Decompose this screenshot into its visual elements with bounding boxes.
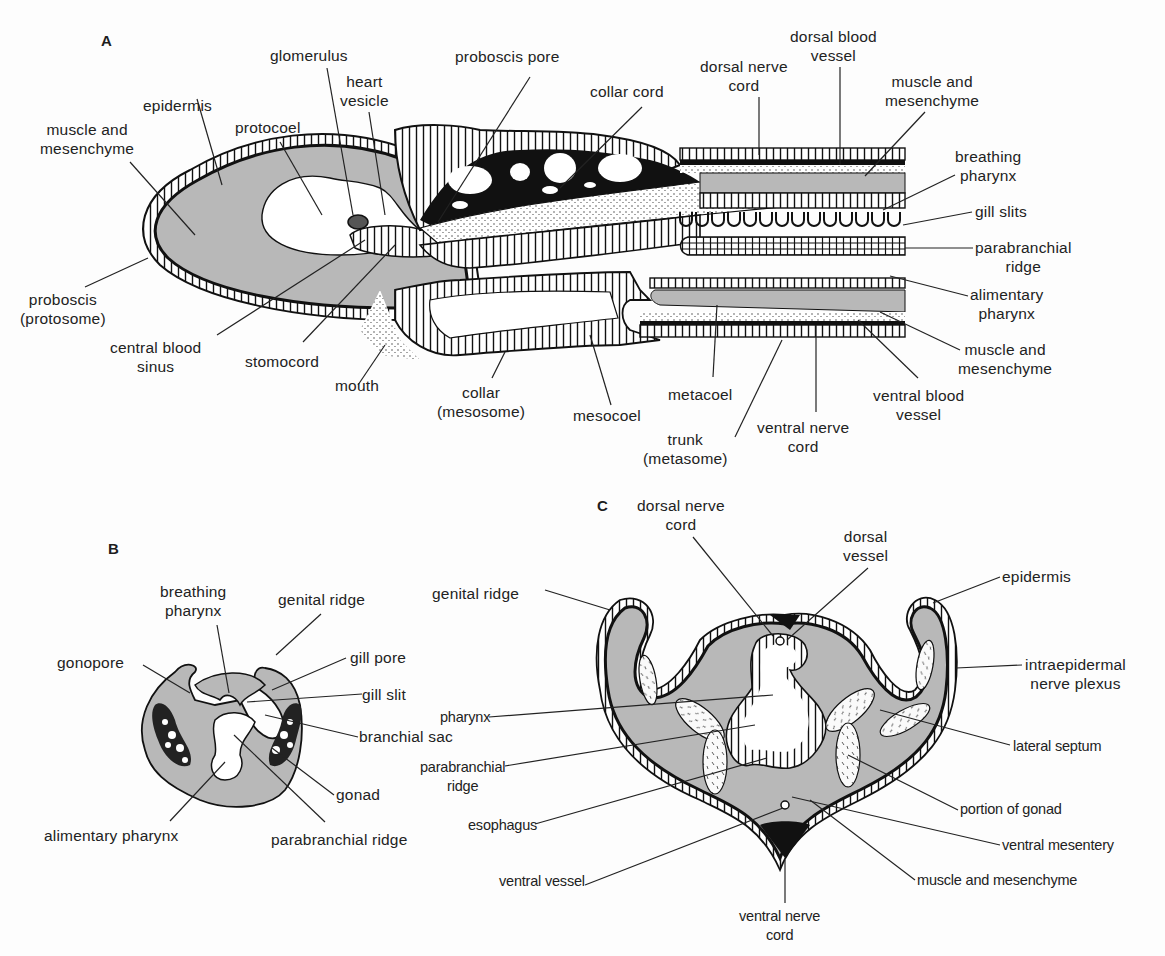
label-proboscis: proboscis (protosome): [20, 290, 106, 328]
label-genital-ridge-c: genital ridge: [432, 584, 519, 603]
label-ventral-nerve-cord-c: ventral nerve cord: [739, 907, 820, 945]
label-mesocoel: mesocoel: [573, 406, 641, 425]
gill-slits-row: [680, 212, 900, 226]
label-intraepidermal-nerve-plexus: intraepidermal nerve plexus: [1025, 655, 1126, 693]
label-gill-pore: gill pore: [350, 648, 406, 667]
label-collar: collar (mesosome): [437, 383, 525, 421]
label-gonad: gonad: [336, 785, 380, 804]
label-breathing-pharynx-b: breathing pharynx: [160, 582, 226, 620]
label-ventral-mesentery: ventral mesentery: [1002, 836, 1114, 855]
label-esophagus: esophagus: [468, 816, 537, 835]
label-muscle-mesenchyme-left: muscle and mesenchyme: [40, 120, 134, 158]
label-lateral-septum: lateral septum: [1013, 737, 1101, 756]
label-muscle-mesenchyme-c: muscle and mesenchyme: [917, 871, 1077, 890]
label-proboscis-pore: proboscis pore: [455, 47, 559, 66]
label-trunk: trunk (metasome): [643, 430, 728, 468]
label-dorsal-blood-vessel: dorsal blood vessel: [790, 27, 877, 65]
label-muscle-mesenchyme-upper: muscle and mesenchyme: [885, 72, 979, 110]
label-dorsal-vessel: dorsal vessel: [843, 527, 888, 565]
label-parabranchial-ridge-a: parabranchial ridge: [975, 238, 1072, 276]
panel-c-drawing: [489, 537, 1022, 903]
label-stomocord: stomocord: [245, 352, 319, 371]
panel-b-drawing: [142, 614, 362, 822]
label-parabranchial-ridge-b: parabranchial ridge: [271, 830, 408, 849]
label-central-blood-sinus: central blood sinus: [110, 338, 201, 376]
label-muscle-mesenchyme-lower: muscle and mesenchyme: [958, 340, 1052, 378]
label-pharynx: pharynx: [440, 708, 490, 727]
label-protocoel: protocoel: [235, 118, 301, 137]
label-epidermis-a: epidermis: [143, 96, 212, 115]
label-collar-cord: collar cord: [590, 82, 664, 101]
label-alimentary-pharynx-a: alimentary pharynx: [970, 285, 1044, 323]
label-dorsal-nerve-cord-a: dorsal nerve cord: [700, 57, 788, 95]
label-gonopore: gonopore: [57, 653, 124, 672]
panel-label-a: A: [101, 32, 112, 49]
panel-a-drawing: [85, 67, 973, 437]
panel-label-c: C: [597, 497, 608, 514]
label-mouth: mouth: [335, 376, 379, 395]
label-glomerulus: glomerulus: [270, 46, 348, 65]
label-dorsal-nerve-cord-c: dorsal nerve cord: [637, 496, 725, 534]
panel-label-b: B: [108, 540, 119, 557]
label-heart-vesicle: heart vesicle: [340, 72, 389, 110]
label-gill-slits: gill slits: [975, 202, 1027, 221]
label-ventral-nerve-cord-a: ventral nerve cord: [757, 418, 849, 456]
label-branchial-sac: branchial sac: [359, 727, 453, 746]
label-gill-slit: gill slit: [362, 685, 406, 704]
label-ventral-blood-vessel: ventral blood vessel: [873, 386, 964, 424]
label-alimentary-pharynx-b: alimentary pharynx: [44, 826, 179, 845]
label-parabranchial-ridge-c: parabranchial ridge: [420, 758, 505, 796]
label-genital-ridge-b: genital ridge: [278, 590, 365, 609]
label-portion-of-gonad: portion of gonad: [960, 800, 1062, 819]
label-epidermis-c: epidermis: [1002, 567, 1071, 586]
label-ventral-vessel: ventral vessel: [499, 872, 585, 891]
label-metacoel: metacoel: [668, 385, 733, 404]
hemichordate-anatomy-figure: A B C glomerulus heart vesicle proboscis…: [0, 0, 1165, 956]
label-breathing-pharynx-a: breathing pharynx: [955, 147, 1021, 185]
